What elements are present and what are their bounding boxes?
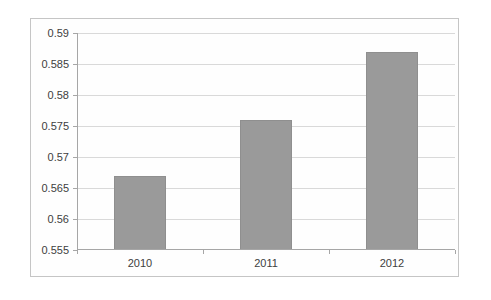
x-tick-label: 2010 — [100, 257, 180, 269]
x-axis-tick — [455, 250, 456, 254]
y-tick-label: 0.585 — [31, 58, 69, 70]
gridline — [77, 33, 455, 34]
y-tick-label: 0.56 — [31, 213, 69, 225]
y-tick-label: 0.57 — [31, 151, 69, 163]
chart-frame: 0.5550.560.5650.570.5750.580.5850.592010… — [30, 18, 459, 277]
y-tick-label: 0.555 — [31, 244, 69, 256]
plot-area: 0.5550.560.5650.570.5750.580.5850.592010… — [77, 33, 455, 250]
x-axis-tick — [77, 250, 78, 254]
y-tick-label: 0.59 — [31, 27, 69, 39]
bar-2010 — [114, 176, 166, 250]
bar-chart-screenshot: 0.5550.560.5650.570.5750.580.5850.592010… — [0, 0, 491, 300]
x-axis-tick — [329, 250, 330, 254]
y-tick-label: 0.565 — [31, 182, 69, 194]
x-tick-label: 2011 — [226, 257, 306, 269]
x-axis-line — [77, 249, 455, 250]
bar-2011 — [240, 120, 292, 250]
bar-2012 — [366, 52, 418, 250]
y-tick-label: 0.58 — [31, 89, 69, 101]
y-tick-label: 0.575 — [31, 120, 69, 132]
y-axis-line — [77, 33, 78, 250]
x-axis-tick — [203, 250, 204, 254]
x-tick-label: 2012 — [352, 257, 432, 269]
